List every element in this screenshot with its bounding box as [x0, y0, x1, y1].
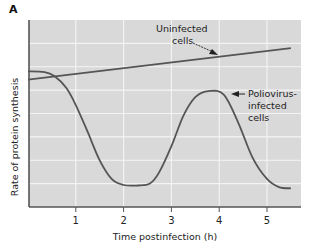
- infected-label-line2: infected: [248, 100, 287, 111]
- x-tick-label: 2: [120, 215, 126, 226]
- x-tick-label: 4: [216, 215, 222, 226]
- x-axis-label: Time postinfection (h): [112, 231, 218, 242]
- figure: A 12345 Uninfected cells Poliovirus- inf…: [0, 0, 328, 251]
- uninfected-label-line2: cells: [172, 35, 193, 46]
- x-ticks: 12345: [73, 207, 271, 226]
- y-axis-label: Rate of protein synthesis: [9, 78, 20, 197]
- x-tick-label: 5: [264, 215, 270, 226]
- infected-label-line3: cells: [248, 112, 269, 123]
- panel-label: A: [9, 3, 18, 16]
- x-tick-label: 3: [168, 215, 174, 226]
- uninfected-label-line1: Uninfected: [156, 23, 208, 34]
- infected-label-line1: Poliovirus-: [248, 88, 297, 99]
- x-tick-label: 1: [73, 215, 79, 226]
